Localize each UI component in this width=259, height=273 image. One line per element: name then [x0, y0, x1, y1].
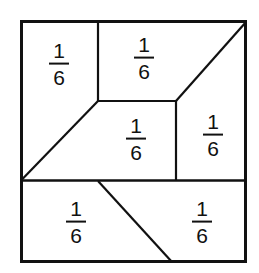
fraction-numerator: 1 [51, 40, 67, 61]
fraction-denominator: 6 [136, 61, 152, 82]
fraction-numerator: 1 [205, 111, 221, 132]
fraction-denominator: 6 [68, 225, 84, 246]
fraction-denominator: 6 [51, 67, 67, 88]
fraction-bar-icon [66, 221, 86, 223]
fraction-bar-icon [192, 221, 212, 223]
fraction-bottom-right: 1 6 [192, 198, 212, 247]
fraction-top-left: 1 6 [49, 40, 69, 89]
fraction-partition-figure: 1 6 1 6 1 6 1 6 1 6 [0, 0, 259, 273]
fraction-numerator: 1 [128, 115, 144, 136]
fraction-numerator: 1 [194, 198, 210, 219]
fraction-numerator: 1 [68, 198, 84, 219]
fraction-denominator: 6 [194, 225, 210, 246]
region-label-center: 1 6 [126, 115, 146, 164]
region-label-bottom-right: 1 6 [192, 198, 212, 247]
fraction-bar-icon [49, 63, 69, 65]
fraction-numerator: 1 [136, 34, 152, 55]
fraction-bar-icon [203, 134, 223, 136]
fraction-bar-icon [126, 138, 146, 140]
fraction-bottom-left: 1 6 [66, 198, 86, 247]
fraction-top-middle: 1 6 [134, 34, 154, 83]
fraction-center: 1 6 [126, 115, 146, 164]
fraction-bar-icon [134, 57, 154, 59]
region-label-bottom-left: 1 6 [66, 198, 86, 247]
region-label-top-middle: 1 6 [134, 34, 154, 83]
region-label-right: 1 6 [203, 111, 223, 160]
region-label-top-left: 1 6 [49, 40, 69, 89]
fraction-denominator: 6 [205, 138, 221, 159]
fraction-denominator: 6 [128, 142, 144, 163]
fraction-right: 1 6 [203, 111, 223, 160]
